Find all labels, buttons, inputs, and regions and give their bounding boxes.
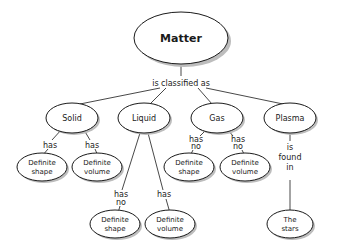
node-label-line2: volume [84,168,110,176]
node-label-line1: Definite [156,216,184,224]
node-matter: Matter [134,12,231,67]
node-label-line1: Definite [83,159,111,167]
link-label-plasma-line2: found [279,153,302,162]
node-label-line1: Definite [28,159,56,167]
node-plasma: Plasma [264,103,318,135]
node-label-line2: shape [104,225,125,233]
node-label-line1: Definite [175,159,203,167]
node-label: Plasma [276,114,305,123]
node-gas: Gas [191,103,245,135]
link-label-gas-has-no-shape-line2: no [191,142,201,151]
node-liquid-definite-shape: Definite shape [90,210,142,240]
node-solid-definite-shape: Definite shape [17,153,69,183]
node-liquid: Liquid [118,103,172,135]
node-gas-definite-shape: Definite shape [164,153,216,183]
link-label-gas-has-no-volume-line2: no [233,142,243,151]
link-label-plasma-line1: is [287,143,293,152]
node-solid-definite-volume: Definite volume [72,153,124,183]
concept-map: Matter is classified as Solid Liquid Gas… [0,0,337,249]
node-label: Solid [62,114,82,123]
node-label: Liquid [132,114,156,123]
node-label-line2: shape [31,168,52,176]
node-solid: Solid [46,103,100,135]
node-label: Gas [209,114,224,123]
link-label-liquid-has: has [157,190,171,199]
link-label-is-classified-as: is classified as [152,79,210,88]
node-label-line1: The [282,216,296,224]
node-the-stars: The stars [267,210,315,240]
node-label-line1: Definite [231,159,259,167]
link-label-liquid-has-no-line2: no [116,198,126,207]
node-label-line2: volume [232,168,258,176]
node-label: Matter [160,32,202,45]
node-liquid-definite-volume: Definite volume [145,210,197,240]
link-label-solid-has-shape: has [43,141,57,150]
link-label-plasma-line3: in [286,163,293,172]
node-label-line2: volume [157,225,183,233]
node-label-line2: shape [178,168,199,176]
node-label-line1: Definite [101,216,129,224]
node-gas-definite-volume: Definite volume [220,153,272,183]
link-label-solid-has-volume: has [85,141,99,150]
node-label-line2: stars [281,225,299,233]
